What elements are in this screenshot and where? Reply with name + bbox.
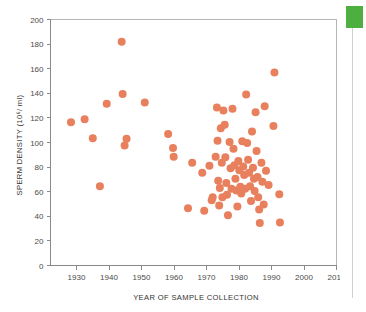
data-point: [269, 122, 277, 130]
data-point: [276, 218, 284, 226]
x-axis-tick-labels: 193019401950196019701980199020002010: [68, 273, 340, 282]
data-point: [265, 181, 273, 189]
data-point: [96, 182, 104, 190]
scatter-chart-figure: 193019401950196019701980199020002010 020…: [0, 0, 340, 312]
data-point: [249, 164, 257, 172]
data-point: [103, 100, 111, 108]
y-tick-label-0: 0: [39, 262, 44, 271]
x-axis-title: YEAR OF SAMPLE COLLECTION: [133, 293, 259, 302]
data-point: [233, 202, 241, 210]
data-point: [221, 121, 229, 129]
data-point: [221, 153, 229, 161]
data-point: [214, 137, 222, 145]
data-point: [198, 169, 206, 177]
data-point: [67, 118, 75, 126]
data-point: [260, 201, 268, 209]
data-point: [254, 193, 262, 201]
data-point: [262, 167, 270, 175]
data-points: [67, 38, 284, 227]
data-point: [170, 153, 178, 161]
chart-canvas: 193019401950196019701980199020002010 020…: [0, 0, 340, 312]
side-panel: [340, 0, 366, 312]
x-tick-label-1970: 1970: [198, 273, 216, 282]
y-tick-label-120: 120: [30, 114, 44, 123]
data-point: [219, 107, 227, 115]
data-point: [89, 134, 97, 142]
y-tick-label-20: 20: [35, 237, 44, 246]
data-point: [118, 38, 126, 46]
x-tick-label-1990: 1990: [263, 273, 281, 282]
data-point: [184, 204, 192, 212]
data-point: [247, 197, 255, 205]
side-divider-rule: [352, 6, 353, 298]
data-point: [248, 127, 256, 135]
y-tick-label-60: 60: [35, 188, 44, 197]
x-tick-label-1950: 1950: [133, 273, 151, 282]
y-tick-label-180: 180: [30, 40, 44, 49]
data-point: [257, 159, 265, 167]
data-point: [214, 177, 222, 185]
data-point: [169, 144, 177, 152]
x-tick-label-1940: 1940: [100, 273, 118, 282]
y-axis-title: SPERM DENSITY (10⁶/ ml): [15, 94, 24, 195]
data-point: [229, 105, 237, 113]
data-point: [216, 184, 224, 192]
data-point: [270, 68, 278, 76]
data-point: [243, 139, 251, 147]
data-point: [215, 201, 223, 209]
data-point: [209, 193, 217, 201]
data-point: [141, 99, 149, 107]
y-tick-label-140: 140: [30, 89, 44, 98]
plot-frame: [51, 20, 337, 266]
data-point: [256, 219, 264, 227]
y-axis-ticks: [47, 20, 51, 266]
data-point: [239, 162, 247, 170]
data-point: [164, 130, 172, 138]
data-point: [81, 115, 89, 123]
data-point: [205, 162, 213, 170]
data-point: [261, 102, 269, 110]
data-point: [242, 91, 250, 99]
y-axis-tick-labels: 020406080100120140160180200: [30, 16, 44, 271]
y-tick-label-200: 200: [30, 16, 44, 25]
data-point: [275, 190, 283, 198]
data-point: [231, 175, 239, 183]
y-tick-label-100: 100: [30, 139, 44, 148]
data-point: [188, 159, 196, 167]
data-point: [229, 145, 237, 153]
x-tick-label-2000: 2000: [295, 273, 313, 282]
data-point: [244, 156, 252, 164]
green-tab-marker[interactable]: [346, 6, 363, 28]
data-point: [226, 138, 234, 146]
x-tick-label-1960: 1960: [165, 273, 183, 282]
data-point: [224, 211, 232, 219]
x-tick-label-2010: 2010: [328, 273, 340, 282]
x-tick-label-1980: 1980: [230, 273, 248, 282]
y-tick-label-80: 80: [35, 163, 44, 172]
data-point: [212, 153, 220, 161]
data-point: [200, 207, 208, 215]
data-point: [119, 90, 127, 98]
x-axis-ticks: [77, 266, 337, 270]
data-point: [121, 142, 129, 150]
data-point: [123, 135, 131, 143]
y-tick-label-160: 160: [30, 65, 44, 74]
x-tick-label-1930: 1930: [68, 273, 86, 282]
y-tick-label-40: 40: [35, 212, 44, 221]
data-point: [252, 108, 260, 116]
data-point: [253, 147, 261, 155]
